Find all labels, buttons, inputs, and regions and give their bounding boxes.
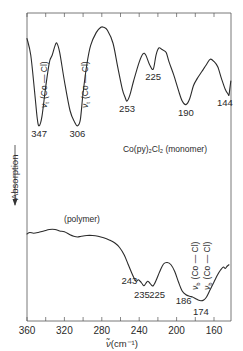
- y-axis-title: Absorption: [9, 155, 20, 200]
- wavenumber-unit: (cm⁻¹): [111, 338, 138, 349]
- svg-text:νb(Co — Cl): νb(Co — Cl): [202, 241, 213, 290]
- peak-label: 235: [134, 289, 150, 300]
- nu-b-annotation-186: νb(Co — Cl): [190, 241, 201, 290]
- svg-text:νb(Co — Cl): νb(Co — Cl): [190, 241, 201, 290]
- peak-label: 186: [176, 295, 192, 306]
- polymer-series-label: (polymer): [64, 214, 100, 224]
- peak-label: 225: [145, 71, 161, 82]
- svg-text:νt(Co — Cl): νt(Co — Cl): [80, 61, 91, 108]
- peak-label: 174: [193, 306, 209, 317]
- bond-label: (Co — Cl): [80, 61, 90, 99]
- bond-label: (Co — Cl): [202, 241, 212, 279]
- x-tick-label: 360: [19, 325, 36, 336]
- x-tick-label: 320: [56, 325, 73, 336]
- nu-subscript: b: [207, 282, 213, 286]
- top-ticks: [27, 13, 214, 17]
- x-axis-title: ν̃(cm⁻¹): [106, 338, 138, 349]
- nu-subscript: t: [44, 102, 50, 104]
- peak-label: 347: [31, 128, 47, 139]
- nu-b-annotation-174: νb(Co — Cl): [202, 241, 213, 290]
- x-tick-labels: 360320280240200160: [19, 325, 223, 336]
- nu-subscript: t: [85, 102, 91, 104]
- bond-label: (Co — Cl): [39, 61, 49, 99]
- bottom-ticks: [27, 317, 214, 321]
- x-tick-label: 280: [93, 325, 110, 336]
- y-axis-label: Absorption: [9, 155, 20, 200]
- nu-t-annotation-306: νt(Co — Cl): [80, 61, 91, 108]
- peak-label: 306: [70, 128, 86, 139]
- peak-label: 144: [217, 97, 233, 108]
- x-tick-label: 200: [168, 325, 185, 336]
- peak-label: 243: [121, 275, 137, 286]
- peak-label: 190: [178, 107, 194, 118]
- nu-subscript: b: [195, 282, 201, 286]
- x-tick-label: 160: [206, 325, 223, 336]
- peak-label: 225: [149, 289, 165, 300]
- ir-spectrum-chart: 360320280240200160 347306253225190144243…: [0, 0, 243, 351]
- x-tick-label: 240: [131, 325, 148, 336]
- peak-label: 253: [119, 103, 135, 114]
- monomer-series-label: Co(py)₂Cl₂ (monomer): [123, 144, 207, 154]
- bond-label: (Co — Cl): [190, 241, 200, 279]
